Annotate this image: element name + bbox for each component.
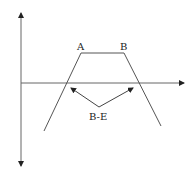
diagram-canvas: A B B-E — [0, 0, 194, 178]
trapezoid-waveform-diagram: A B B-E — [0, 0, 194, 178]
label-b: B — [120, 41, 127, 52]
be-arrow-left — [71, 88, 99, 107]
label-a: A — [76, 41, 85, 52]
label-b-e: B-E — [89, 111, 107, 122]
be-arrow-right — [99, 88, 133, 107]
